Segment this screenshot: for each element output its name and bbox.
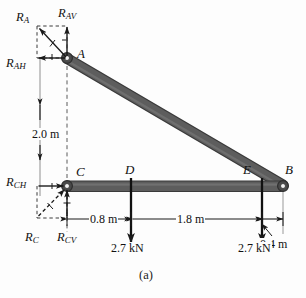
force-label-RAH: RAH	[6, 57, 26, 71]
force-label-RC-base: R	[25, 230, 33, 244]
force-label-RC: RC	[25, 231, 39, 245]
dimension-label-0.8m: 0.8 m	[89, 213, 118, 225]
dimension-label-2.0m: 2.0 m	[31, 128, 60, 140]
force-label-RCV: RCV	[57, 231, 76, 245]
joint-label-C: C	[76, 165, 85, 178]
force-label-RAH-sub: AH	[14, 61, 26, 71]
member-CB-horizontal	[64, 181, 286, 193]
joint-B-pin	[278, 181, 289, 192]
joint-label-E: E	[243, 163, 251, 176]
force-label-RCH: RCH	[6, 176, 26, 190]
free-body-diagram-figure: A C D E B RA RAV RAH RCH RC RCV 2.0 m 0.…	[0, 0, 306, 298]
force-label-RCH-base: R	[6, 175, 14, 189]
dimension-line-0.4m	[262, 212, 283, 236]
force-label-RAH-base: R	[6, 56, 14, 70]
force-label-RCV-sub: CV	[65, 235, 77, 245]
force-label-RAV-sub: AV	[66, 11, 77, 21]
force-label-RC-sub: C	[33, 235, 39, 245]
vector-RC	[39, 190, 65, 217]
dimension-label-1.8m: 1.8 m	[176, 213, 205, 225]
load-label-at-D: 2.7 kN	[110, 242, 145, 254]
joint-label-D: D	[125, 163, 134, 176]
force-label-RAV-base: R	[58, 6, 66, 20]
joint-label-A: A	[77, 47, 85, 60]
force-label-RA-base: R	[16, 10, 24, 24]
figure-caption: (a)	[139, 268, 153, 283]
joint-label-B: B	[285, 163, 293, 176]
force-label-RA: RA	[16, 11, 29, 25]
force-label-RCH-sub: CH	[14, 180, 27, 190]
force-label-RA-sub: A	[24, 15, 30, 25]
force-label-RCV-base: R	[57, 230, 65, 244]
load-label-at-E: 2.7 kN	[237, 242, 272, 254]
force-label-RAV: RAV	[58, 7, 76, 21]
